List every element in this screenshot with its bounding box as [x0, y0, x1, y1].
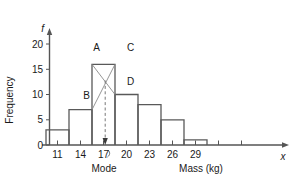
y-tick-label-5: 5 [37, 114, 43, 125]
x-tick-label-14: 14 [75, 149, 87, 160]
x-tick-label-23: 23 [144, 149, 156, 160]
x-tick-label-11: 11 [52, 149, 63, 160]
mode-construction-lines [92, 64, 115, 109]
x-axis-arrow-icon [282, 142, 289, 147]
x-axis-title: Mass (kg) [179, 163, 223, 174]
bar-20 [115, 95, 138, 146]
bar-23 [138, 105, 161, 145]
x-axis-symbol: x [280, 151, 287, 162]
y-tick-label-20: 20 [32, 39, 44, 50]
y-axis-symbol: f [41, 23, 45, 34]
bar-14 [69, 110, 92, 145]
point-label-a: A [93, 42, 100, 53]
x-tick-label-20: 20 [121, 149, 133, 160]
x-tick-label-29: 29 [190, 149, 202, 160]
construction-line-b-c [92, 64, 115, 109]
y-axis-arrow-icon [47, 28, 52, 35]
point-label-c: C [127, 42, 134, 53]
point-label-d: D [127, 76, 134, 87]
y-tick-label-0: 0 [37, 140, 43, 151]
x-axis [42, 142, 289, 147]
y-axis-title: Frequency [4, 76, 15, 123]
x-tick-label-26: 26 [167, 149, 179, 160]
y-tick-label-10: 10 [32, 89, 44, 100]
y-axis [47, 28, 52, 145]
x-tick-label-17: 17 [98, 149, 110, 160]
construction-line-a-d [92, 64, 115, 94]
mode-label: Mode [91, 163, 116, 174]
point-label-b: B [83, 90, 90, 101]
histogram-chart: 0 5 10 15 20 f Frequency [0, 0, 302, 180]
bar-17 [92, 64, 115, 145]
y-tick-label-15: 15 [32, 64, 44, 75]
chart-canvas: 0 5 10 15 20 f Frequency [0, 0, 302, 180]
